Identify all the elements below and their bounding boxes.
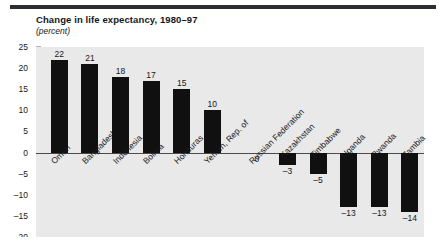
bar-value-label: –13 bbox=[372, 208, 386, 218]
y-axis-tick-label: –10 bbox=[14, 190, 28, 200]
y-axis-tick-label: 5 bbox=[23, 126, 28, 136]
header-rule bbox=[10, 5, 436, 9]
bar bbox=[81, 64, 98, 153]
figure-container: Change in life expectancy, 1980–97 (perc… bbox=[0, 0, 444, 247]
chart-title: Change in life expectancy, 1980–97 bbox=[36, 14, 366, 26]
bar-value-label: 15 bbox=[177, 78, 186, 88]
bar-value-label: –14 bbox=[403, 213, 417, 223]
y-axis: 2520151050–5–10–15–20 bbox=[0, 47, 36, 237]
bar-value-label: 18 bbox=[116, 66, 125, 76]
bar bbox=[51, 60, 68, 153]
y-axis-tick-label: –15 bbox=[14, 211, 28, 221]
y-axis-tick-label: 15 bbox=[19, 84, 28, 94]
y-axis-tick-label: 25 bbox=[19, 42, 28, 52]
bar bbox=[371, 153, 388, 208]
y-axis-tick-label: 20 bbox=[19, 63, 28, 73]
bar bbox=[112, 77, 129, 153]
figure-footer-space bbox=[0, 237, 444, 247]
y-axis-tick-label: 10 bbox=[19, 105, 28, 115]
bar-value-label: 22 bbox=[55, 49, 64, 59]
bar bbox=[340, 153, 357, 208]
bar bbox=[401, 153, 418, 212]
bar-value-label: –13 bbox=[342, 208, 356, 218]
bar-value-label: 10 bbox=[208, 99, 217, 109]
bar-value-label: –5 bbox=[313, 175, 322, 185]
chart-subtitle: (percent) bbox=[36, 26, 366, 37]
y-axis-tick-label: 0 bbox=[23, 148, 28, 158]
y-axis-tick-label: –5 bbox=[19, 169, 28, 179]
bar-value-label: 17 bbox=[146, 70, 155, 80]
bar-value-label: 21 bbox=[85, 53, 94, 63]
bar-value-label: –3 bbox=[283, 166, 292, 176]
plot-area: 22Oman21Bangladesh18Indonesia17Bolivia15… bbox=[36, 47, 424, 237]
title-block: Change in life expectancy, 1980–97 (perc… bbox=[36, 14, 366, 37]
